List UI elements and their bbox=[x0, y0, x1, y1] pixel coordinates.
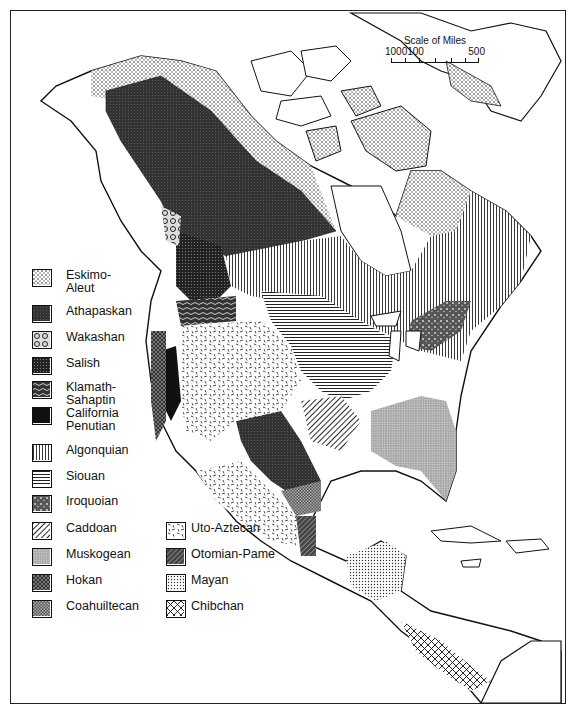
region-klamath-sahaptin bbox=[176, 296, 236, 326]
swatch-algonquian bbox=[32, 444, 52, 462]
legend-label: Mayan bbox=[191, 574, 311, 587]
swatch-california-penutian bbox=[32, 407, 52, 425]
legend-item-algonquian: Algonquian bbox=[32, 444, 146, 462]
caribbean-islands bbox=[431, 526, 549, 567]
legend-label: Salish bbox=[66, 357, 146, 370]
legend-label: Athapaskan bbox=[66, 305, 146, 318]
legend-item-klamath-sahaptin: Klamath-Sahaptin bbox=[32, 381, 146, 407]
swatch-caddoan bbox=[32, 522, 52, 540]
legend-item-wakashan: Wakashan bbox=[32, 331, 146, 349]
legend-label: Hokan bbox=[66, 574, 146, 587]
legend-label: Uto-Aztecan bbox=[191, 522, 311, 535]
legend-label: Otomian-Pame bbox=[191, 548, 311, 561]
legend-label: Iroquoian bbox=[66, 495, 146, 508]
legend-item-eskimo-aleut: Eskimo-Aleut bbox=[32, 269, 146, 295]
legend-label: Coahuiltecan bbox=[66, 600, 146, 613]
scale-title: Scale of Miles bbox=[385, 35, 485, 46]
legend-label: Siouan bbox=[66, 470, 146, 483]
swatch-coahuiltecan bbox=[32, 600, 52, 618]
legend-item-uto-aztecan: Uto-Aztecan bbox=[166, 522, 311, 540]
legend-label: Aleut bbox=[66, 282, 146, 295]
legend-item-caddoan: Caddoan bbox=[32, 522, 146, 540]
swatch-athapaskan bbox=[32, 305, 52, 323]
scale-tick: 100 bbox=[385, 46, 402, 57]
legend-label: Muskogean bbox=[66, 548, 146, 561]
legend-item-otomian-pame: Otomian-Pame bbox=[166, 548, 311, 566]
swatch-chibchan bbox=[166, 600, 186, 618]
legend-label: Chibchan bbox=[191, 600, 311, 613]
swatch-uto-aztecan bbox=[166, 522, 186, 540]
legend-item-coahuiltecan: Coahuiltecan bbox=[32, 600, 146, 618]
legend-item-iroquoian: Iroquoian bbox=[32, 495, 146, 513]
legend-label: Caddoan bbox=[66, 522, 146, 535]
swatch-mayan bbox=[166, 574, 186, 592]
swatch-wakashan bbox=[32, 331, 52, 349]
swatch-salish bbox=[32, 357, 52, 375]
swatch-iroquoian bbox=[32, 495, 52, 513]
legend-item-mayan: Mayan bbox=[166, 574, 311, 592]
scale-of-miles: Scale of Miles 100 0 100 500 bbox=[385, 35, 485, 63]
swatch-klamath-sahaptin bbox=[32, 381, 52, 399]
region-hokan bbox=[151, 331, 166, 441]
greenland bbox=[351, 13, 561, 121]
legend-item-athapaskan: Athapaskan bbox=[32, 305, 146, 323]
scale-ticks: 100 0 100 500 bbox=[385, 46, 485, 57]
map-frame: Scale of Miles 100 0 100 500 Eskimo-Aleu… bbox=[10, 10, 566, 704]
legend-item-california-penutian: CaliforniaPenutian bbox=[32, 407, 146, 433]
swatch-eskimo-aleut bbox=[32, 269, 52, 287]
legend-item-siouan: Siouan bbox=[32, 470, 146, 488]
scale-tick: 500 bbox=[468, 46, 485, 57]
legend-label: Penutian bbox=[66, 420, 146, 433]
swatch-otomian-pame bbox=[166, 548, 186, 566]
swatch-muskogean bbox=[32, 548, 52, 566]
legend-item-hokan: Hokan bbox=[32, 574, 146, 592]
scale-bar bbox=[391, 57, 479, 63]
swatch-siouan bbox=[32, 470, 52, 488]
legend-label: Wakashan bbox=[66, 331, 146, 344]
region-muskogean bbox=[371, 396, 456, 501]
legend-item-muskogean: Muskogean bbox=[32, 548, 146, 566]
scale-tick: 100 bbox=[407, 46, 424, 57]
legend-item-salish: Salish bbox=[32, 357, 146, 375]
legend-label: Algonquian bbox=[66, 444, 146, 457]
legend-item-chibchan: Chibchan bbox=[166, 600, 311, 618]
swatch-hokan bbox=[32, 574, 52, 592]
